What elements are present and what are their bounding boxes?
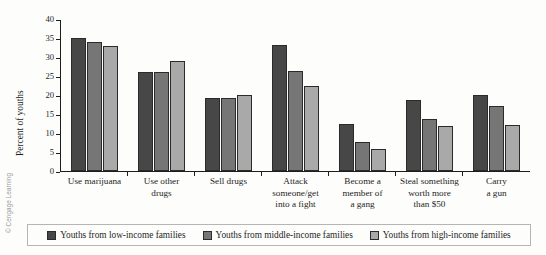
bar-group: [396, 20, 463, 171]
x-axis-category-label-line: member of: [330, 188, 395, 200]
x-axis-category-label-line: Use other: [129, 176, 194, 188]
legend-item: Youths from low-income families: [47, 230, 185, 240]
legend-swatch: [203, 231, 212, 240]
x-axis-category-labels: Use marijuanaUse otherdrugsSell drugsAtt…: [61, 176, 530, 224]
bar: [87, 42, 102, 171]
x-axis-category-label-line: worth more: [397, 188, 462, 200]
x-axis-category-label: Carrya gun: [463, 176, 530, 224]
bar: [71, 38, 86, 171]
y-axis-tick-label: 35: [45, 33, 54, 43]
y-axis-tick-label: 25: [45, 71, 54, 81]
bar-group: [61, 20, 128, 171]
x-axis-category-label-line: drugs: [129, 188, 194, 200]
legend-label: Youths from low-income families: [60, 230, 185, 240]
legend-label: Youths from high-income families: [383, 230, 511, 240]
legend-label: Youths from middle-income families: [216, 230, 353, 240]
bar: [505, 125, 520, 171]
y-axis-tick-mark: [56, 134, 60, 135]
y-axis-tick-mark: [56, 153, 60, 154]
bar: [355, 142, 370, 171]
y-axis-tick-label: 5: [50, 147, 54, 157]
x-axis-category-label-line: Use marijuana: [62, 176, 127, 188]
legend-swatch: [47, 231, 56, 240]
x-axis-category-label-line: someone/get: [263, 188, 328, 200]
bar: [489, 106, 504, 171]
y-axis-tick-label: 10: [45, 128, 54, 138]
x-axis-category-label: Steal somethingworth morethan $50: [396, 176, 463, 224]
bar-group: [329, 20, 396, 171]
bar-group: [463, 20, 530, 171]
bar: [138, 72, 153, 171]
y-axis-tick-mark: [56, 58, 60, 59]
bar: [422, 119, 437, 171]
x-axis-category-label-line: a gun: [464, 188, 529, 200]
x-axis-category-label: Become amember ofa gang: [329, 176, 396, 224]
bar-group: [195, 20, 262, 171]
y-axis-tick-mark: [56, 115, 60, 116]
y-axis-tick-mark: [56, 172, 60, 173]
bar: [371, 149, 386, 171]
bar: [205, 98, 220, 171]
y-axis-tick-mark: [56, 20, 60, 21]
x-axis-category-label: Use marijuana: [61, 176, 128, 224]
x-axis-category-label-line: Sell drugs: [196, 176, 261, 188]
bar-groups: [61, 20, 530, 171]
bar: [221, 98, 236, 171]
bar: [272, 45, 287, 171]
bar: [473, 95, 488, 171]
y-axis-tick-label: 20: [45, 90, 54, 100]
bar: [237, 95, 252, 171]
chart-legend: Youths from low-income familiesYouths fr…: [27, 224, 531, 246]
bar: [304, 86, 319, 171]
bar: [406, 100, 421, 171]
y-axis-tick-mark: [56, 96, 60, 97]
y-axis-tick-label: 0: [50, 166, 54, 176]
chart-figure: © Cengage Learning Percent of youths 051…: [0, 0, 546, 255]
bar: [438, 126, 453, 171]
x-axis-category-label-line: Attack: [263, 176, 328, 188]
x-axis-category-label-line: Carry: [464, 176, 529, 188]
x-axis-category-label-line: than $50: [397, 199, 462, 211]
legend-item: Youths from high-income families: [370, 230, 511, 240]
x-axis-category-label-line: a gang: [330, 199, 395, 211]
y-axis-tick-label: 40: [45, 14, 54, 24]
x-axis-category-label-line: into a fight: [263, 199, 328, 211]
bar: [103, 46, 118, 171]
x-axis-category-label-line: Steal something: [397, 176, 462, 188]
x-axis-category-label: Use otherdrugs: [128, 176, 195, 224]
bar: [154, 72, 169, 171]
legend-swatch: [370, 231, 379, 240]
bar: [288, 71, 303, 171]
y-axis-tick-mark: [56, 39, 60, 40]
plot-area: 0510152025303540: [60, 20, 530, 172]
y-axis-tick-label: 15: [45, 109, 54, 119]
x-axis-category-label: Attacksomeone/getinto a fight: [262, 176, 329, 224]
bar-group: [262, 20, 329, 171]
bar: [170, 61, 185, 171]
y-axis-tick-label: 30: [45, 52, 54, 62]
y-axis-tick-mark: [56, 77, 60, 78]
x-axis-line: [60, 171, 530, 172]
bar: [339, 124, 354, 172]
bar-group: [128, 20, 195, 171]
x-axis-category-label-line: Become a: [330, 176, 395, 188]
x-axis-category-label: Sell drugs: [195, 176, 262, 224]
legend-item: Youths from middle-income families: [203, 230, 353, 240]
